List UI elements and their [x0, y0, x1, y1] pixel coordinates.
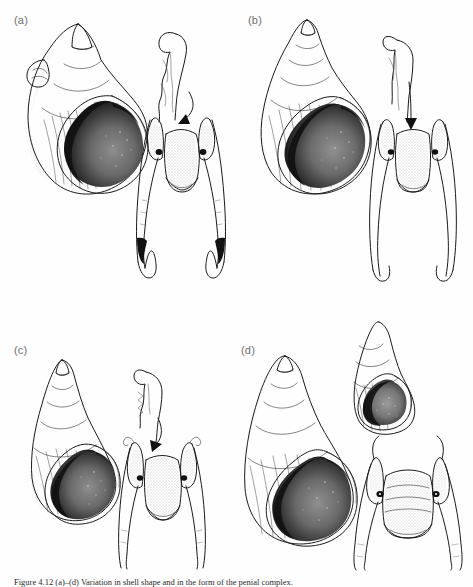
panel-b-artwork [237, 0, 473, 290]
shell-b [261, 20, 371, 194]
panel-c-artwork [0, 330, 237, 570]
panel-a-artwork [0, 0, 237, 290]
shell-a [27, 24, 148, 194]
figure-plate: (a) [0, 0, 473, 587]
anatomy-a [137, 32, 226, 278]
panel-c: (c) [0, 330, 237, 570]
shell-c [30, 360, 120, 524]
anatomy-d [354, 436, 462, 570]
panel-a-label: (a) [14, 14, 28, 26]
figure-caption: Figure 4.12 (a)–(d) Variation in shell s… [14, 578, 464, 587]
shell-d-main [243, 356, 357, 546]
panel-b: (b) [237, 0, 473, 290]
anatomy-c [119, 370, 206, 569]
panel-d: (d) [237, 330, 473, 570]
panel-c-label: (c) [14, 344, 27, 356]
panel-d-label: (d) [241, 344, 255, 356]
panel-b-label: (b) [248, 14, 262, 26]
shell-d-inset [353, 322, 415, 435]
panel-d-artwork [237, 330, 473, 570]
anatomy-b [370, 36, 457, 281]
panel-a: (a) [0, 0, 237, 290]
